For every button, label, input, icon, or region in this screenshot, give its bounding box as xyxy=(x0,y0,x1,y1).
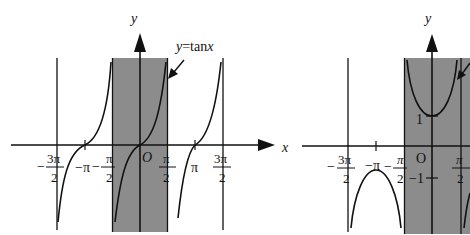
svg-text:−: − xyxy=(92,159,100,174)
tick-label-r-neg-3pi-2: − 3π 2 xyxy=(327,152,355,186)
svg-text:π: π xyxy=(456,152,463,167)
label-pointer-line xyxy=(174,60,184,72)
y-axis-label-left: y xyxy=(129,11,138,26)
svg-text:2: 2 xyxy=(343,171,350,186)
svg-text:2: 2 xyxy=(219,170,226,185)
tan-graph: y y=tanx x O − 3π 2 −π − π 2 π 2 π 3π xyxy=(11,11,289,232)
tan-and-sec-graphs: y y=tanx x O − 3π 2 −π − π 2 π 2 π 3π xyxy=(0,0,470,235)
svg-text:3π: 3π xyxy=(214,151,228,166)
tick-label-neg-pi-2: − π 2 xyxy=(92,151,115,185)
svg-text:2: 2 xyxy=(106,170,113,185)
y-axis-arrow-icon xyxy=(134,33,146,52)
y-tick-label-one: 1 xyxy=(416,112,423,127)
svg-text:2: 2 xyxy=(51,170,58,185)
y-tick-label-neg-one: −1 xyxy=(409,171,424,186)
svg-text:π: π xyxy=(106,151,113,166)
tick-label-r-neg-pi: −π xyxy=(365,158,380,173)
sec-lower-branch xyxy=(351,170,401,228)
function-label: y=tanx xyxy=(174,39,214,54)
tan-branch-3 xyxy=(178,62,221,218)
y-axis-label-right: y xyxy=(423,11,432,26)
tick-label-neg-pi: −π xyxy=(75,160,90,175)
svg-text:2: 2 xyxy=(457,171,464,186)
tick-label-pi: π xyxy=(191,160,198,175)
svg-text:3π: 3π xyxy=(338,152,352,167)
tick-label-3pi-2: 3π 2 xyxy=(213,151,231,185)
function-label-eq: =tan xyxy=(182,39,207,54)
svg-text:2: 2 xyxy=(397,171,404,186)
origin-label-right: O xyxy=(416,151,426,166)
svg-text:−: − xyxy=(37,159,45,174)
svg-text:2: 2 xyxy=(163,170,170,185)
svg-text:−: − xyxy=(384,159,392,174)
svg-text:π: π xyxy=(163,151,170,166)
function-label-x: x xyxy=(206,39,214,54)
y-axis-arrow-right-icon xyxy=(426,34,438,52)
svg-text:π: π xyxy=(397,152,404,167)
x-axis-label: x xyxy=(281,140,289,155)
svg-text:3π: 3π xyxy=(47,151,61,166)
x-axis-arrow-icon xyxy=(258,139,275,151)
sec-graph: y O 1 −1 − 3π 2 −π − π 2 π 2 xyxy=(302,11,470,234)
tick-label-neg-3pi-2: − 3π 2 xyxy=(37,151,64,185)
svg-text:−: − xyxy=(327,159,335,174)
tick-label-r-neg-pi-2: − π 2 xyxy=(384,152,407,186)
origin-label-left: O xyxy=(142,150,152,165)
